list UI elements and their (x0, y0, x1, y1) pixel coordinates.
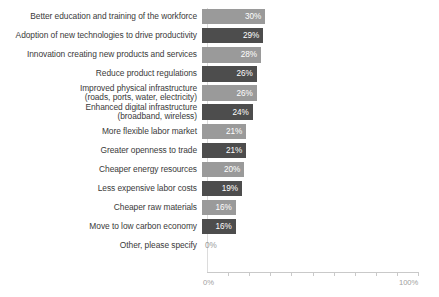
chart-row: Innovation creating new products and ser… (0, 46, 439, 64)
x-axis-tick (355, 272, 356, 276)
bar-track: 19% (202, 180, 439, 198)
bar-track: 28% (202, 46, 439, 64)
bar: 21% (202, 143, 246, 158)
category-label: Less expensive labor costs (0, 184, 202, 193)
chart-row: Greater openness to trade21% (0, 142, 439, 160)
horizontal-bar-chart: Better education and training of the wor… (0, 0, 439, 297)
x-axis-tick (270, 272, 271, 276)
category-label: More flexible labor market (0, 127, 202, 136)
chart-row: Less expensive labor costs19% (0, 180, 439, 198)
category-label: Reduce product regulations (0, 69, 202, 78)
chart-row: Better education and training of the wor… (0, 8, 439, 26)
bar-track: 26% (202, 84, 439, 102)
x-axis-tick (249, 272, 250, 276)
bar: 26% (202, 66, 257, 81)
bar-track: 21% (202, 142, 439, 160)
category-label: Greater openness to trade (0, 146, 202, 155)
bar-value-label: 29% (243, 31, 259, 40)
chart-row: Other, please specify0% (0, 237, 439, 255)
bar-value-label: 26% (237, 69, 253, 78)
bar-track: 20% (202, 161, 439, 179)
chart-row: Improved physical infrastructure (roads,… (0, 84, 439, 102)
x-axis-tick (334, 272, 335, 276)
chart-row: Cheaper energy resources20% (0, 161, 439, 179)
category-label: Enhanced digital infrastructure (broadba… (0, 103, 202, 121)
bar-track: 24% (202, 103, 439, 121)
chart-row: Adoption of new technologies to drive pr… (0, 27, 439, 45)
bar-track: 29% (202, 27, 439, 45)
bar-track: 21% (202, 123, 439, 141)
category-label: Other, please specify (0, 241, 202, 250)
chart-row: Move to low carbon economy16% (0, 218, 439, 236)
category-label: Cheaper energy resources (0, 165, 202, 174)
bar-value-label: 21% (226, 146, 242, 155)
bar-value-label: 30% (245, 12, 261, 21)
category-label: Improved physical infrastructure (roads,… (0, 84, 202, 102)
category-label: Better education and training of the wor… (0, 12, 202, 21)
bar: 20% (202, 162, 244, 177)
x-axis-end-label: 100% (399, 278, 418, 287)
category-label: Move to low carbon economy (0, 222, 202, 231)
x-axis-tick (291, 272, 292, 276)
bar-track: 0% (202, 237, 439, 255)
x-axis-tick (313, 272, 314, 276)
bar: 28% (202, 47, 261, 62)
bar: 29% (202, 28, 263, 43)
bar: 30% (202, 9, 265, 24)
chart-row: Reduce product regulations26% (0, 65, 439, 83)
bar: 24% (202, 104, 253, 119)
bar: 16% (202, 219, 236, 234)
bar-value-label: 19% (222, 184, 238, 193)
x-axis-start-label: 0% (203, 278, 214, 287)
bar: 16% (202, 200, 236, 215)
bar-value-label: 26% (237, 89, 253, 98)
chart-row: More flexible labor market21% (0, 123, 439, 141)
category-label: Adoption of new technologies to drive pr… (0, 31, 202, 40)
bar-track: 30% (202, 8, 439, 26)
bar: 21% (202, 124, 246, 139)
bar: 0% (202, 238, 205, 253)
bar-value-label: 20% (224, 165, 240, 174)
bar: 19% (202, 181, 242, 196)
category-label: Cheaper raw materials (0, 203, 202, 212)
bar-track: 16% (202, 218, 439, 236)
bar-value-label: 21% (226, 127, 242, 136)
bar-value-label: 16% (216, 222, 232, 231)
x-axis-tick (228, 272, 229, 276)
bar-value-label: 0% (205, 241, 217, 250)
category-label: Innovation creating new products and ser… (0, 50, 202, 59)
x-axis-tick (397, 272, 398, 276)
bar: 26% (202, 85, 257, 100)
bar-track: 16% (202, 199, 439, 217)
bar-value-label: 24% (232, 108, 248, 117)
x-axis-tick (376, 272, 377, 276)
bar-value-label: 28% (241, 50, 257, 59)
x-axis-tick (418, 272, 419, 276)
chart-row: Enhanced digital infrastructure (broadba… (0, 103, 439, 121)
bar-track: 26% (202, 65, 439, 83)
chart-plot-area: Better education and training of the wor… (0, 8, 439, 256)
chart-row: Cheaper raw materials16% (0, 199, 439, 217)
bar-value-label: 16% (216, 203, 232, 212)
